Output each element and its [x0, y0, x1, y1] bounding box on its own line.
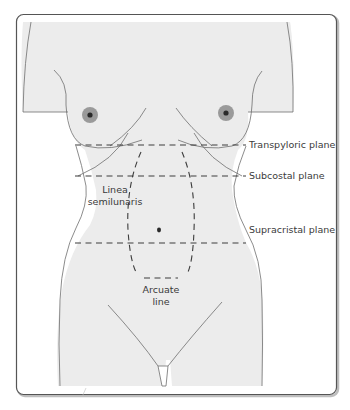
label-arcuate-line-line1: Arcuate [132, 284, 190, 296]
label-linea-semilunaris-line2: semilunaris [86, 196, 144, 208]
abdominal-wall-diagram [0, 0, 350, 410]
left-nipple [87, 112, 92, 117]
right-nipple [223, 110, 228, 115]
label-transpyloric-plane: Transpyloric plane [249, 139, 335, 151]
label-subcostal-plane: Subcostal plane [249, 170, 325, 182]
label-arcuate-line: Arcuate line [132, 284, 190, 308]
label-arcuate-line-line2: line [132, 296, 190, 308]
label-linea-semilunaris-line1: Linea [86, 184, 144, 196]
label-supracristal-plane: Supracristal plane [249, 224, 335, 236]
label-linea-semilunaris: Linea semilunaris [86, 184, 144, 208]
umbilicus [157, 228, 161, 233]
